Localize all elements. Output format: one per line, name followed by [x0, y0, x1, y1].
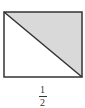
fraction-label: 1 2: [0, 85, 85, 108]
numerator: 1: [39, 85, 47, 95]
denominator: 2: [39, 98, 47, 108]
